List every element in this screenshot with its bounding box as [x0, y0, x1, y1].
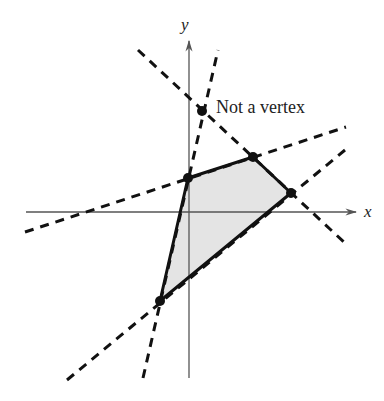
vertex-point [183, 173, 193, 183]
x-axis-label: x [363, 202, 372, 221]
feasible-region [160, 157, 291, 301]
not-a-vertex-label: Not a vertex [216, 97, 305, 117]
non-vertex-point [197, 106, 207, 116]
vertex-point [248, 152, 258, 162]
vertex-point [286, 188, 296, 198]
feasible-region-diagram: y x Not a vertex [0, 0, 384, 401]
y-axis-label: y [179, 15, 189, 34]
vertex-point [155, 296, 165, 306]
